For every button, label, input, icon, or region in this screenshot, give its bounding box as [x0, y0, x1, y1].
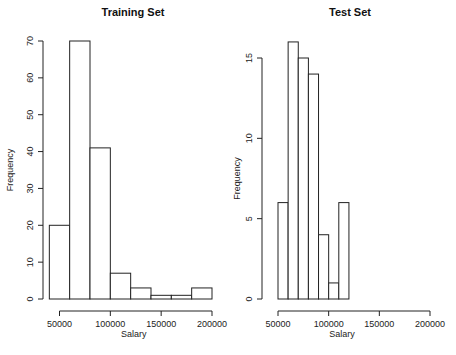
histogram-bar — [90, 148, 110, 299]
histogram-bar — [278, 203, 288, 299]
y-tick-label: 50 — [25, 110, 35, 120]
histogram-bar — [151, 295, 171, 299]
y-tick-label: 20 — [25, 220, 35, 230]
histogram-bar — [329, 283, 339, 299]
training-set-histogram: Training Set 010203040506070 50000100000… — [5, 6, 227, 339]
histogram-bar — [298, 58, 308, 299]
x-axis: 50000100000150000200000 — [47, 311, 227, 329]
histogram-figure: Training Set 010203040506070 50000100000… — [0, 0, 456, 355]
histogram-bars — [278, 42, 349, 299]
x-tick-label: 200000 — [415, 319, 445, 329]
y-tick-label: 10 — [25, 257, 35, 267]
test-set-histogram: Test Set 051015 50000100000150000200000 … — [232, 6, 445, 339]
x-tick-label: 50000 — [47, 319, 72, 329]
y-tick-label: 40 — [25, 147, 35, 157]
histogram-bar — [192, 288, 212, 299]
y-tick-label: 60 — [25, 73, 35, 83]
x-tick-label: 150000 — [364, 319, 394, 329]
x-axis-label: Salary — [121, 329, 147, 339]
y-axis: 051015 — [244, 53, 262, 302]
y-tick-label: 5 — [244, 216, 254, 221]
histogram-bars — [49, 41, 212, 299]
y-tick-label: 30 — [25, 183, 35, 193]
histogram-bar — [339, 203, 349, 299]
x-tick-label: 150000 — [146, 319, 176, 329]
histogram-bar — [288, 42, 298, 299]
histogram-bar — [49, 225, 69, 299]
histogram-bar — [171, 295, 191, 299]
x-tick-label: 100000 — [314, 319, 344, 329]
y-tick-label: 70 — [25, 36, 35, 46]
y-tick-label: 0 — [244, 296, 254, 301]
histogram-bar — [319, 235, 329, 299]
y-tick-label: 10 — [244, 133, 254, 143]
histogram-bar — [308, 74, 318, 299]
histogram-bar — [110, 273, 130, 299]
x-tick-label: 50000 — [265, 319, 290, 329]
x-axis-label: Salary — [329, 329, 355, 339]
chart-title: Test Set — [329, 6, 371, 18]
y-tick-label: 0 — [25, 296, 35, 301]
x-axis: 50000100000150000200000 — [265, 311, 445, 329]
x-tick-label: 100000 — [95, 319, 125, 329]
y-axis-label: Frequency — [232, 157, 242, 200]
y-axis-label: Frequency — [5, 148, 15, 191]
y-tick-label: 15 — [244, 53, 254, 63]
histogram-bar — [70, 41, 90, 299]
histogram-bar — [131, 288, 151, 299]
y-axis: 010203040506070 — [25, 36, 43, 302]
x-tick-label: 200000 — [197, 319, 227, 329]
chart-title: Training Set — [102, 6, 165, 18]
